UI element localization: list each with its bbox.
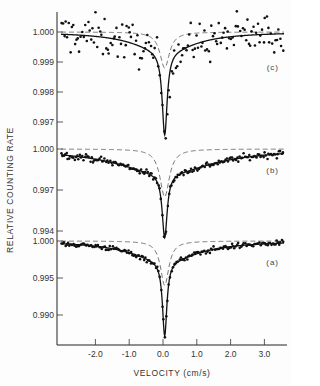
data-point bbox=[266, 15, 269, 18]
data-point bbox=[82, 36, 85, 39]
data-point bbox=[206, 161, 209, 164]
data-point bbox=[220, 42, 223, 45]
y-tick-label: 0.999 bbox=[33, 57, 55, 67]
data-point bbox=[280, 45, 283, 48]
data-point bbox=[190, 167, 193, 170]
data-point bbox=[192, 56, 195, 59]
data-point bbox=[140, 168, 143, 171]
data-point bbox=[143, 259, 146, 262]
data-point bbox=[74, 43, 77, 46]
data-point bbox=[126, 252, 129, 255]
data-point bbox=[99, 30, 102, 33]
data-point bbox=[112, 245, 115, 248]
data-point bbox=[86, 40, 89, 43]
data-point bbox=[110, 248, 113, 251]
data-point bbox=[168, 193, 171, 196]
data-point bbox=[277, 28, 280, 31]
data-point bbox=[60, 152, 63, 155]
data-point bbox=[207, 249, 210, 252]
data-point bbox=[161, 104, 164, 107]
data-point bbox=[166, 113, 169, 116]
data-point bbox=[186, 258, 189, 261]
data-point bbox=[268, 41, 271, 44]
data-point bbox=[261, 28, 264, 31]
data-point bbox=[279, 241, 282, 244]
panel-label: (c) bbox=[267, 63, 279, 72]
data-point bbox=[191, 49, 194, 52]
data-point bbox=[211, 248, 214, 251]
y-tick-label: 0.998 bbox=[33, 87, 55, 97]
data-point bbox=[203, 250, 206, 253]
data-point bbox=[177, 260, 180, 263]
fit-curve-solid bbox=[61, 34, 284, 135]
fit-curve-solid bbox=[61, 154, 284, 238]
data-point bbox=[208, 50, 211, 53]
data-point bbox=[222, 31, 225, 34]
data-point bbox=[158, 276, 161, 279]
data-point bbox=[145, 168, 148, 171]
data-point bbox=[141, 255, 144, 258]
data-point bbox=[184, 47, 187, 50]
data-point bbox=[165, 230, 168, 233]
data-point bbox=[77, 158, 80, 161]
x-tick-label: -1.0 bbox=[122, 349, 137, 359]
data-point bbox=[273, 51, 276, 54]
data-point bbox=[137, 254, 140, 257]
data-point bbox=[90, 38, 93, 41]
data-point bbox=[279, 38, 282, 41]
data-point bbox=[130, 251, 133, 254]
data-point bbox=[141, 57, 144, 60]
data-point bbox=[150, 172, 153, 175]
data-point bbox=[107, 52, 110, 55]
data-point bbox=[170, 184, 173, 187]
data-point bbox=[93, 41, 96, 44]
data-point bbox=[184, 170, 187, 173]
data-point bbox=[148, 41, 151, 44]
x-tick-label: 2.0 bbox=[225, 349, 237, 359]
data-point bbox=[158, 187, 161, 190]
data-point bbox=[192, 169, 195, 172]
data-point bbox=[231, 36, 234, 39]
data-point bbox=[239, 30, 242, 33]
data-point bbox=[241, 156, 244, 159]
data-point bbox=[159, 198, 162, 201]
data-point bbox=[161, 306, 164, 309]
data-point bbox=[147, 171, 150, 174]
data-point bbox=[212, 35, 215, 38]
data-point bbox=[188, 33, 191, 36]
data-point bbox=[157, 65, 160, 68]
data-point bbox=[163, 130, 166, 133]
data-point bbox=[76, 37, 79, 40]
panel-a: (a) bbox=[60, 239, 284, 339]
data-point bbox=[87, 156, 90, 159]
data-point bbox=[282, 240, 285, 243]
data-point bbox=[246, 156, 249, 159]
data-point bbox=[107, 48, 110, 51]
data-point bbox=[189, 22, 192, 25]
data-point bbox=[282, 151, 285, 154]
data-point bbox=[252, 25, 255, 28]
data-point bbox=[115, 27, 118, 30]
data-point bbox=[245, 39, 248, 42]
data-point bbox=[135, 39, 138, 42]
data-point bbox=[156, 265, 159, 268]
data-point bbox=[168, 96, 171, 99]
fit-curve-solid bbox=[61, 243, 284, 336]
data-point bbox=[65, 152, 68, 155]
data-point bbox=[278, 243, 281, 246]
data-point bbox=[255, 156, 258, 159]
data-point bbox=[237, 242, 240, 245]
data-point bbox=[263, 41, 266, 44]
data-point bbox=[181, 171, 184, 174]
data-point bbox=[199, 253, 202, 256]
data-point bbox=[197, 46, 200, 49]
data-point bbox=[274, 243, 277, 246]
data-point bbox=[97, 244, 100, 247]
data-point bbox=[161, 214, 164, 217]
data-point bbox=[240, 35, 243, 38]
data-point bbox=[62, 22, 65, 25]
data-point bbox=[144, 47, 147, 50]
data-point bbox=[160, 92, 163, 95]
data-point bbox=[104, 245, 107, 248]
data-point bbox=[125, 25, 128, 28]
